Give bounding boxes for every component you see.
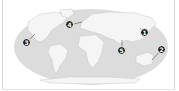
marker-label: 3 [24, 39, 28, 46]
marker-label: 2 [159, 46, 163, 53]
marker-1[interactable]: 1 [140, 28, 149, 37]
marker-3[interactable]: 3 [22, 38, 31, 47]
marker-label: 5 [119, 47, 123, 54]
marker-2[interactable]: 2 [157, 45, 166, 54]
marker-label: 1 [142, 29, 146, 36]
marker-5[interactable]: 5 [117, 46, 126, 55]
marker-4[interactable]: 4 [65, 20, 74, 29]
marker-label: 4 [67, 21, 71, 28]
